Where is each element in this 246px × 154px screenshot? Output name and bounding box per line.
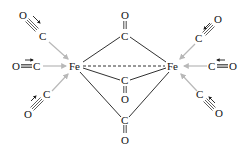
diiron-nonacarbonyl-diagram: Fe Fe O C C O C O O C O C C O C O C O C … — [0, 0, 246, 154]
tr-upper-c: C — [195, 32, 202, 44]
fe-right-label: Fe — [167, 60, 178, 72]
bridge-top-c: C — [121, 30, 128, 42]
bridge-bottom-c: C — [121, 114, 128, 126]
structure-canvas: Fe Fe O C C O C O O C O C C O C O C O C … — [0, 0, 246, 154]
tl-lower-o: O — [24, 108, 32, 120]
atom-labels: Fe Fe O C C O C O O C O C C O C O C O C … — [12, 9, 237, 146]
bridge-middle-o: O — [121, 93, 129, 105]
tl-middle-c: C — [33, 60, 40, 72]
tl-upper-o: O — [19, 9, 27, 21]
fe-left-label: Fe — [69, 60, 80, 72]
tr-middle-o: O — [229, 60, 237, 72]
bridge-middle-c: C — [121, 74, 128, 86]
tl-upper-c: C — [39, 30, 46, 42]
bridge-bottom-o: O — [121, 134, 129, 146]
tr-upper-o: O — [214, 13, 222, 25]
bridge-top-o: O — [121, 9, 129, 21]
tr-middle-c: C — [208, 60, 215, 72]
tr-lower-o: O — [215, 107, 223, 119]
tr-lower-c: C — [196, 88, 203, 100]
tl-middle-o: O — [12, 60, 20, 72]
tl-lower-c: C — [43, 88, 50, 100]
